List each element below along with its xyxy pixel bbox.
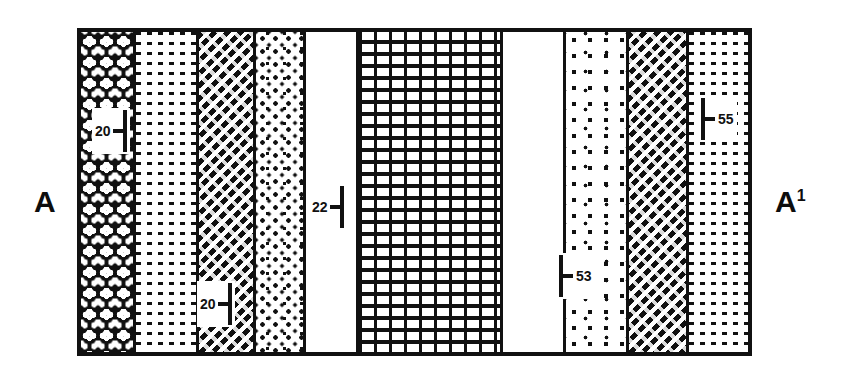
measurement-marker-55-value: 55 bbox=[718, 112, 734, 126]
section-end-label-right-letter: A bbox=[775, 185, 797, 218]
measurement-marker-20-lower-value: 20 bbox=[200, 297, 216, 311]
bracket-icon bbox=[115, 110, 127, 152]
section-end-label-right-superscript: 1 bbox=[797, 187, 806, 204]
lithology-column-1 bbox=[81, 32, 136, 352]
measurement-marker-20-upper-value: 20 bbox=[95, 124, 111, 138]
lithology-column-10 bbox=[689, 32, 748, 352]
bracket-icon bbox=[220, 283, 232, 325]
lithology-column-8 bbox=[566, 32, 629, 352]
lithology-column-2 bbox=[136, 32, 198, 352]
lithology-column-4 bbox=[256, 32, 306, 352]
cross-section-frame bbox=[77, 28, 752, 356]
lithology-column-7 bbox=[503, 32, 566, 352]
measurement-marker-20-lower: 20 bbox=[197, 281, 235, 327]
section-end-label-right: A1 bbox=[775, 187, 806, 217]
measurement-marker-22-value: 22 bbox=[312, 200, 328, 214]
measurement-marker-55: 55 bbox=[698, 96, 737, 142]
measurement-marker-20-upper: 20 bbox=[92, 108, 130, 154]
lithology-column-9 bbox=[629, 32, 688, 352]
measurement-marker-53-value: 53 bbox=[576, 269, 592, 283]
bracket-icon bbox=[701, 98, 713, 140]
bracket-icon bbox=[332, 186, 344, 228]
cross-section-figure: A A1 20 20 22 53 bbox=[0, 0, 850, 383]
section-end-label-left: A bbox=[34, 187, 56, 217]
lithology-column-6 bbox=[359, 32, 503, 352]
bracket-icon bbox=[559, 255, 571, 297]
measurement-marker-53: 53 bbox=[556, 253, 595, 299]
measurement-marker-22: 22 bbox=[309, 184, 347, 230]
